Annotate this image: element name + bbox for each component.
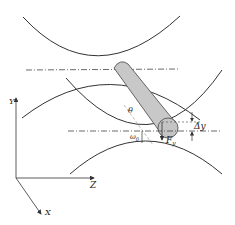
theta-label: θ: [128, 106, 133, 115]
delta-y-label: Δy: [193, 121, 206, 131]
x-axis-label: X: [44, 208, 51, 217]
x-axis: [16, 178, 41, 214]
middle-roller-arc: [22, 84, 200, 120]
top-roller-arc: [23, 16, 180, 56]
diagram-canvas: θ Δy Fy ω0 Y Z X: [0, 0, 235, 225]
y-axis-label: Y: [9, 97, 15, 106]
omega-label: ω0: [130, 133, 140, 142]
force-label: Fy: [165, 135, 176, 147]
bottom-roller-arc: [70, 141, 222, 174]
z-axis-label: Z: [89, 180, 97, 190]
particle-rod: [114, 62, 178, 145]
upper-centerline: [26, 69, 180, 70]
